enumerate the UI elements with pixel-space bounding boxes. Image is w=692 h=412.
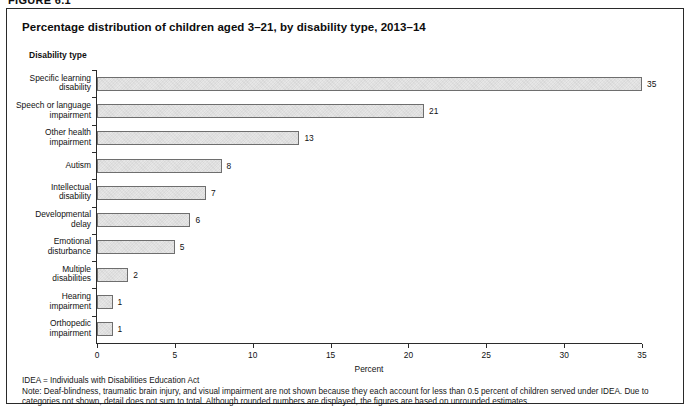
figure-number-label: FIGURE 6.1 (8, 0, 71, 6)
bar-value-label: 1 (118, 297, 123, 307)
y-axis-tick (92, 97, 96, 98)
bar-value-label: 5 (180, 242, 185, 252)
y-axis-tick (92, 152, 96, 153)
y-axis-tick (92, 288, 96, 289)
bar-row: Intellectualdisability7 (7, 179, 685, 206)
category-label: Hearingimpairment (0, 292, 91, 311)
note-text: Note: Deaf-blindness, traumatic brain in… (22, 387, 677, 408)
y-axis-tick (92, 207, 96, 208)
bar (97, 186, 206, 200)
x-axis-tick-label: 25 (482, 350, 491, 360)
bar-value-label: 35 (647, 79, 656, 89)
bar-value-label: 1 (118, 324, 123, 334)
bar-row: Other healthimpairment13 (7, 125, 685, 152)
y-axis-tick (92, 125, 96, 126)
x-axis-title: Percent (355, 364, 384, 374)
category-label: Developmentaldelay (0, 211, 91, 230)
y-axis-tick (92, 234, 96, 235)
bar (97, 131, 299, 145)
category-label: Multipledisabilities (0, 265, 91, 284)
y-axis-tick (92, 316, 96, 317)
bar (97, 240, 175, 254)
x-axis-tick (253, 344, 254, 348)
x-axis-tick-label: 10 (248, 350, 257, 360)
bar (97, 77, 642, 91)
bar-value-label: 13 (304, 133, 313, 143)
bar-chart-plot-area: Specific learningdisability35Speech or l… (7, 9, 685, 405)
x-axis-tick-label: 5 (173, 350, 178, 360)
x-axis-tick (564, 344, 565, 348)
y-axis-tick (92, 70, 96, 71)
bar-value-label: 21 (429, 106, 438, 116)
bar (97, 295, 113, 309)
x-axis-tick (175, 344, 176, 348)
bar (97, 322, 113, 336)
category-label: Emotionaldisturbance (0, 238, 91, 257)
bar-value-label: 7 (211, 188, 216, 198)
note-abbreviation: IDEA = Individuals with Disabilities Edu… (22, 376, 677, 387)
category-label: Specific learningdisability (0, 74, 91, 93)
bar-row: Specific learningdisability35 (7, 70, 685, 97)
bar-value-label: 8 (227, 161, 232, 171)
x-axis-tick (331, 344, 332, 348)
bar-value-label: 6 (195, 215, 200, 225)
x-axis-line (96, 343, 642, 344)
x-axis-tick-label: 0 (95, 350, 100, 360)
x-axis-tick (486, 344, 487, 348)
category-label: Other healthimpairment (0, 129, 91, 148)
x-axis-tick-label: 35 (637, 350, 646, 360)
bar-row: Hearingimpairment1 (7, 288, 685, 315)
x-axis-tick-label: 20 (404, 350, 413, 360)
category-label: Autism (0, 161, 91, 171)
x-axis-tick (642, 344, 643, 348)
bar (97, 104, 424, 118)
bar (97, 159, 222, 173)
bar-value-label: 2 (133, 270, 138, 280)
bar-row: Speech or languageimpairment21 (7, 97, 685, 124)
category-label: Speech or languageimpairment (0, 101, 91, 120)
bar-row: Multipledisabilities2 (7, 261, 685, 288)
x-axis-tick (97, 344, 98, 348)
y-axis-tick (92, 179, 96, 180)
bar (97, 268, 128, 282)
x-axis-tick-label: 30 (559, 350, 568, 360)
category-label: Intellectualdisability (0, 183, 91, 202)
bar-row: Developmentaldelay6 (7, 207, 685, 234)
figure-notes: IDEA = Individuals with Disabilities Edu… (22, 376, 677, 408)
x-axis-tick-label: 15 (326, 350, 335, 360)
x-axis-tick (408, 344, 409, 348)
category-label: Orthopedicimpairment (0, 320, 91, 339)
bar (97, 213, 190, 227)
bar-row: Emotionaldisturbance5 (7, 234, 685, 261)
bar-row: Orthopedicimpairment1 (7, 316, 685, 343)
bar-row: Autism8 (7, 152, 685, 179)
y-axis-tick (92, 261, 96, 262)
figure-frame: Percentage distribution of children aged… (6, 8, 684, 404)
